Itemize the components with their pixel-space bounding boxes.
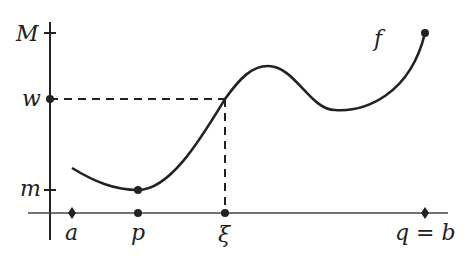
label-qb: q = b: [395, 220, 456, 245]
label-p: p: [131, 220, 145, 245]
point-min: [134, 186, 142, 194]
point-qb: [421, 207, 429, 219]
label-w: w: [22, 86, 41, 111]
point-xi: [221, 209, 229, 217]
point-max: [421, 29, 429, 37]
point-a: [68, 207, 76, 219]
label-a: a: [65, 220, 78, 245]
label-f: f: [372, 26, 386, 51]
label-m: m: [20, 176, 41, 201]
label-M: M: [15, 21, 39, 46]
point-p: [134, 209, 142, 217]
diagram: M w m a p ξ q = b f: [0, 0, 467, 256]
label-xi: ξ: [218, 222, 232, 247]
function-curve: [72, 33, 425, 190]
